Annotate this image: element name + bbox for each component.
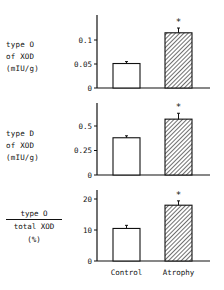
bar-atrophy	[165, 205, 192, 261]
y-tick-label: 0.05	[74, 60, 92, 69]
y-tick-label: 0	[87, 171, 92, 180]
y-tick-label: 0.1	[78, 36, 92, 45]
bar-control	[113, 64, 140, 88]
bar-control	[113, 138, 140, 175]
y-tick-label: 0.5	[78, 122, 92, 131]
bar-control	[113, 228, 140, 261]
significance-marker: *	[176, 17, 181, 27]
bar-atrophy	[165, 33, 192, 88]
significance-marker: *	[176, 190, 181, 200]
x-label-control: Control	[111, 268, 143, 277]
y-tick-label: 10	[83, 226, 93, 235]
panel-3: 01020*ControlAtrophy	[83, 190, 210, 277]
panel-2: 00.250.5*	[74, 102, 210, 179]
bar-atrophy	[165, 119, 192, 175]
y-tick-label: 20	[83, 195, 93, 204]
y-tick-label: 0	[87, 257, 92, 266]
chart-canvas: 00.050.1*00.250.5*01020*ControlAtrophy	[0, 0, 224, 290]
x-label-atrophy: Atrophy	[163, 268, 195, 277]
y-tick-label: 0.25	[74, 146, 92, 155]
y-tick-label: 0	[87, 84, 92, 93]
panel-1: 00.050.1*	[74, 15, 210, 93]
significance-marker: *	[176, 102, 181, 112]
